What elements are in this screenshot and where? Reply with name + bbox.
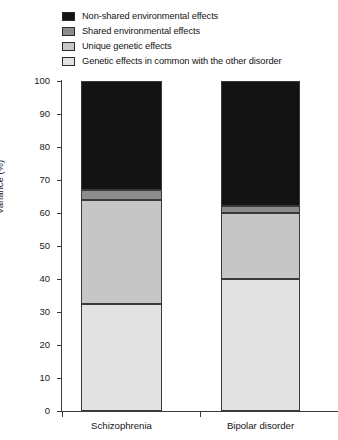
x-axis-tick xyxy=(200,411,201,417)
bar-segment-genetic-effects-in-common-with-the-other-disorder[interactable] xyxy=(221,279,300,411)
bar-segment-unique-genetic-effects[interactable] xyxy=(81,200,162,304)
y-axis-tick-label: 50 xyxy=(28,241,50,251)
bar-segment-shared-environmental-effects[interactable] xyxy=(221,206,300,213)
y-axis-tick-label: 60 xyxy=(28,208,50,218)
stacked-bar-schizophrenia[interactable] xyxy=(81,81,162,411)
y-axis-tick-label: 40 xyxy=(28,274,50,284)
y-axis-tick-label: 100 xyxy=(28,76,50,86)
x-axis-label-bipolar-disorder: Bipolar disorder xyxy=(199,420,322,431)
x-axis-tick xyxy=(62,411,63,417)
y-axis-tick-label: 10 xyxy=(28,373,50,383)
bar-segment-genetic-effects-in-common-with-the-other-disorder[interactable] xyxy=(81,304,162,411)
y-axis-tick-label: 30 xyxy=(28,307,50,317)
y-axis-tick-label: 70 xyxy=(28,175,50,185)
y-axis-tick-label: 80 xyxy=(28,142,50,152)
bar-segment-shared-environmental-effects[interactable] xyxy=(81,190,162,200)
y-axis-tick-label: 20 xyxy=(28,340,50,350)
x-axis-label-schizophrenia: Schizophrenia xyxy=(59,420,184,431)
y-axis-tick-label: 90 xyxy=(28,109,50,119)
stacked-bar-bipolar-disorder[interactable] xyxy=(221,81,300,411)
bar-segment-unique-genetic-effects[interactable] xyxy=(221,213,300,279)
bar-segment-non-shared-environmental-effects[interactable] xyxy=(81,81,162,190)
bar-segment-non-shared-environmental-effects[interactable] xyxy=(221,81,300,206)
y-axis-tick-label: 0 xyxy=(28,406,50,416)
plot-area xyxy=(62,81,338,411)
